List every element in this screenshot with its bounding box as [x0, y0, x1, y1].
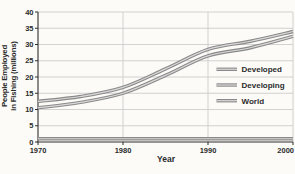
chart-canvas: 05101520253035401970198019902000Develope…	[0, 0, 295, 174]
x-tick-label: 1990	[200, 146, 217, 155]
legend-label-developing: Developing	[242, 81, 285, 90]
x-tick-label: 1970	[30, 146, 47, 155]
x-tick-label: 2000	[277, 146, 294, 155]
y-tick-label: 30	[25, 40, 33, 49]
fishing-employment-line-chart: 05101520253035401970198019902000Develope…	[0, 0, 295, 174]
x-tick-label: 1980	[115, 146, 132, 155]
y-tick-label: 25	[25, 56, 33, 65]
y-tick-label: 40	[25, 8, 33, 17]
y-tick-label: 10	[25, 105, 33, 114]
y-axis-title-line-2: in Fishing (millions)	[9, 41, 18, 111]
y-tick-label: 20	[25, 73, 33, 82]
legend-item-developed: Developed	[217, 65, 283, 74]
y-axis-title-line-1: People Employed	[0, 45, 9, 107]
legend-item-world: World	[217, 97, 265, 106]
legend-label-world: World	[242, 97, 265, 106]
legend-label-developed: Developed	[242, 65, 283, 74]
y-tick-label: 35	[25, 24, 33, 33]
y-tick-label: 5	[29, 121, 33, 130]
x-axis-title: Year	[157, 154, 176, 164]
legend-item-developing: Developing	[217, 81, 285, 90]
y-tick-label: 15	[25, 89, 33, 98]
